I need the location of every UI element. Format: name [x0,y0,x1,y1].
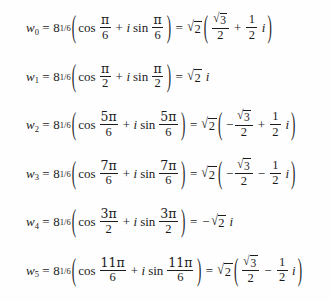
equation-row: w4 = 81/6 ( cos 3π 2 + i sin 3π 2 ) = − … [0,198,330,247]
sin-function: sin [140,214,155,230]
real-numerator: √3 [212,13,229,28]
paren-open: ( [218,155,222,193]
angle-numerator: 11π [167,256,193,270]
equation-lhs: w1 [26,69,39,86]
cos-function: cos [78,166,95,182]
imaginary-unit: i [285,117,289,133]
real-numerator: √3 [235,158,252,173]
cos-function: cos [78,117,95,133]
radical-sign: √ [213,11,219,27]
equals-sign: = [42,69,49,85]
angle-numerator: 5π [100,110,118,124]
sqrt3: √3 [237,110,251,124]
real-part-fraction: √3 2 [235,158,252,188]
angle-denominator: 2 [102,77,108,91]
equals-sign: = [190,117,197,133]
real-part-fraction: √3 2 [212,13,229,43]
imaginary-unit: i [262,20,266,36]
cos-angle-fraction: 7π 6 [100,159,118,188]
imaginary-unit: i [292,263,296,279]
equation-lhs: w2 [26,117,39,134]
paren-close: ) [197,252,201,290]
paren-close: ) [181,203,185,241]
equals-sign: = [42,214,49,230]
modulus-sqrt: √2 [201,166,216,182]
angle-denominator: 6 [106,125,112,139]
exponent: 1/6 [60,72,71,82]
radical-sign: √ [244,254,250,270]
imag-part-fraction: 1 2 [270,110,281,139]
equation-row: w1 = 81/6 ( cos π 2 + i sin π 2 ) = √2 i [0,53,330,102]
exponent: 1/6 [60,120,71,130]
radicand: 2 [194,69,202,85]
angle-denominator: 2 [106,222,112,236]
plus-sign: + [116,20,123,36]
rhs-operator: − [258,166,265,182]
equals-sign: = [176,20,183,36]
imag-numerator: 1 [248,13,256,27]
equals-sign: = [42,20,49,36]
imag-part-fraction: 1 2 [270,159,281,188]
angle-numerator: π [153,13,163,27]
paren-open: ( [72,58,76,96]
equation-list: w0 = 81/6 ( cos π 6 + i sin π 6 ) = √2 (… [0,0,330,302]
equation-row: w5 = 81/6 ( cos 11π 6 + i sin 11π 6 ) = … [0,247,330,296]
imag-part-fraction: 1 2 [277,256,288,285]
exponent: 1/6 [60,23,71,33]
radicand: 3 [220,13,228,27]
imaginary-unit: i [126,69,130,85]
radical-sign: √ [237,108,243,124]
lhs-subscript: 4 [35,221,39,231]
radical-sign: √ [211,213,218,230]
paren-open: ( [218,106,222,144]
equals-sign: = [42,117,49,133]
imag-denominator: 2 [272,125,278,139]
paren-close: ) [167,9,171,47]
exponent: 1/6 [60,169,71,179]
imag-numerator: 1 [278,256,286,270]
angle-denominator: 6 [165,174,171,188]
imaginary-unit: i [134,214,138,230]
imag-part-fraction: 1 2 [246,13,257,42]
modulus-sqrt: √2 [211,215,226,231]
paren-close: ) [181,155,185,193]
radicand: 3 [250,255,258,269]
sin-angle-fraction: π 6 [152,13,163,42]
lhs-subscript: 1 [35,75,39,85]
lhs-subscript: 3 [35,172,39,182]
rhs-operator: − [264,263,271,279]
real-numerator: √3 [242,255,259,270]
imaginary-unit: i [134,117,138,133]
equation-lhs: w4 [26,214,39,231]
equation-row: w0 = 81/6 ( cos π 6 + i sin π 6 ) = √2 (… [0,4,330,53]
radicand: 3 [243,110,251,124]
paren-open: ( [72,106,76,144]
sqrt3: √3 [243,255,257,269]
plus-sign: + [116,69,123,85]
lhs-subscript: 0 [35,27,39,37]
sin-function: sin [133,20,148,36]
angle-numerator: 3π [100,207,118,221]
cos-angle-fraction: π 2 [100,62,111,91]
radical-sign: √ [201,165,208,182]
radicand: 3 [243,158,251,172]
paren-open: ( [72,9,76,47]
imaginary-unit: i [134,166,138,182]
real-denominator: 2 [241,126,247,140]
paren-open: ( [204,9,208,47]
angle-denominator: 6 [155,28,161,42]
sin-angle-fraction: π 2 [152,62,163,91]
angle-numerator: 7π [100,159,118,173]
exponent: 1/6 [60,217,71,227]
paren-open: ( [234,252,238,290]
angle-denominator: 6 [109,271,115,285]
cos-function: cos [78,263,95,279]
radical-sign: √ [201,116,208,133]
equals-sign: = [42,263,49,279]
imag-numerator: 1 [271,110,279,124]
plus-sign: + [131,263,138,279]
radical-sign: √ [237,157,243,173]
angle-numerator: 7π [159,159,177,173]
paren-close: ) [291,106,295,144]
paren-close: ) [291,155,295,193]
